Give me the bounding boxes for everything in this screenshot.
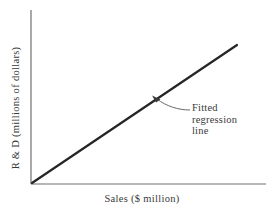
annotation-line-2: regression: [192, 114, 237, 126]
x-axis-label: Sales ($ million): [92, 193, 192, 204]
annotation-line-3: line: [192, 125, 237, 137]
annotation-line-1: Fitted: [192, 102, 237, 114]
regression-scatter-figure: R & D (millions of dollars) Sales ($ mil…: [0, 0, 274, 222]
annotation-text: Fitted regression line: [192, 102, 237, 137]
y-axis-label: R & D (millions of dollars): [10, 33, 24, 183]
annotation-leader-curve: [157, 99, 190, 110]
